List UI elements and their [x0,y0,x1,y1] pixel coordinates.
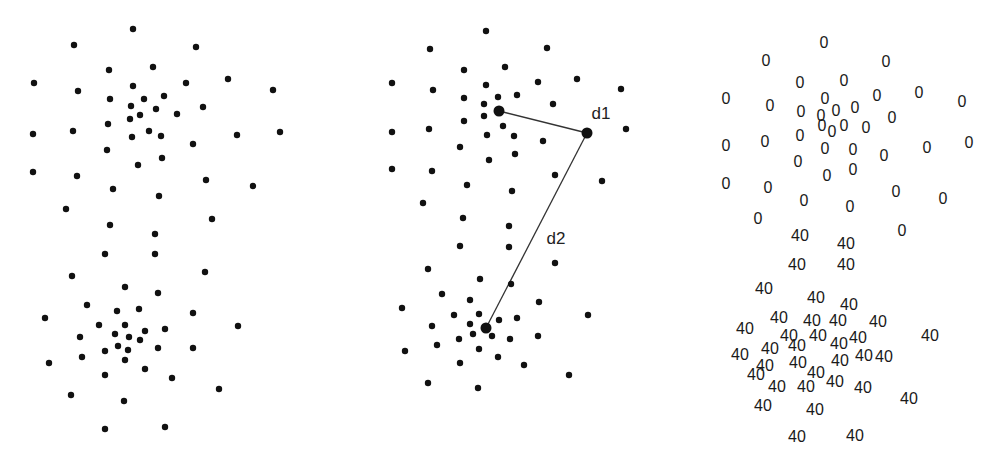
cluster-label-0: 0 [823,167,832,184]
data-point [476,346,482,352]
data-point [514,92,520,98]
data-point [193,44,199,50]
data-point [225,76,231,82]
data-point [107,96,113,102]
data-point [30,169,36,175]
cluster-label-40: 40 [831,352,849,369]
data-point [425,266,431,272]
data-point [122,284,128,290]
data-point [470,331,476,337]
data-point [112,331,118,337]
cluster-label-0: 0 [796,74,805,91]
highlighted-points [481,106,593,334]
cluster-label-40: 40 [837,235,855,252]
distance-lines [486,111,587,328]
data-point [389,80,395,86]
panel-distances: d1d2 [389,28,629,391]
data-point [159,155,165,161]
data-point [129,134,135,140]
cluster-label-0: 0 [882,53,891,70]
data-point [68,392,74,398]
cluster-label-40: 40 [791,227,809,244]
cluster-label-40: 40 [846,427,864,444]
cluster-label-40: 40 [809,327,827,344]
data-point [389,129,395,135]
data-point [429,168,435,174]
data-point [122,357,128,363]
cluster-label-0: 0 [851,99,860,116]
data-point [461,67,467,73]
data-point [209,216,215,222]
data-point [152,251,158,257]
data-point [158,133,164,139]
cluster-label-0: 0 [821,90,830,107]
cluster-label-40: 40 [747,366,765,383]
data-point [399,305,405,311]
data-point [155,345,161,351]
data-point [102,251,108,257]
data-point [476,311,482,317]
data-point [484,132,490,138]
data-point [430,87,436,93]
cluster-label-40: 40 [855,347,873,364]
cluster-label-40: 40 [797,378,815,395]
data-point [156,193,162,199]
cluster-label-0: 0 [915,84,924,101]
data-point [535,79,541,85]
data-point [126,334,132,340]
cluster-label-0: 0 [796,127,805,144]
data-point [107,222,113,228]
cluster-label-0: 0 [764,179,773,196]
data-point [127,116,133,122]
data-point [130,83,136,89]
data-point [508,281,514,287]
data-point [451,312,457,318]
data-point [115,343,121,349]
cluster-label-0: 0 [888,109,897,126]
cluster-label-0: 0 [766,97,775,114]
data-point [566,372,572,378]
cluster-label-0: 0 [762,52,771,69]
data-point [599,178,605,184]
data-point [481,113,487,119]
data-point [105,121,111,127]
cluster-label-0: 0 [722,90,731,107]
cluster-label-0: 0 [873,87,882,104]
data-point [250,183,256,189]
data-point [426,126,432,132]
data-point [150,64,156,70]
data-point [155,290,161,296]
clustering-figure: d1d2 00000000000000000000000000000000000… [0,0,998,468]
cluster-label-0: 0 [898,222,907,239]
data-point [142,366,148,372]
cluster-label-0: 0 [849,141,858,158]
cluster-label-0: 0 [965,134,974,151]
cluster-label-40: 40 [806,401,824,418]
cluster-label-40: 40 [761,340,779,357]
data-point [110,186,116,192]
data-point [190,345,196,351]
data-point [420,200,426,206]
data-point [467,321,473,327]
data-point [234,132,240,138]
cluster-label-40: 40 [830,335,848,352]
data-point [162,424,168,430]
data-point [136,306,142,312]
data-point [495,354,501,360]
data-point [203,177,209,183]
cluster-label-0: 0 [846,198,855,215]
data-point [30,131,36,137]
data-point [540,138,546,144]
data-point [71,42,77,48]
data-point [402,348,408,354]
data-point [574,76,580,82]
cluster-label-0: 0 [722,137,731,154]
data-point [457,144,463,150]
cluster-label-40: 40 [840,296,858,313]
cluster-label-40: 40 [788,256,806,273]
data-point [200,104,206,110]
data-point [461,118,467,124]
highlighted-point-c [481,323,492,334]
distance-label-d2: d2 [547,229,566,248]
data-point [495,94,501,100]
